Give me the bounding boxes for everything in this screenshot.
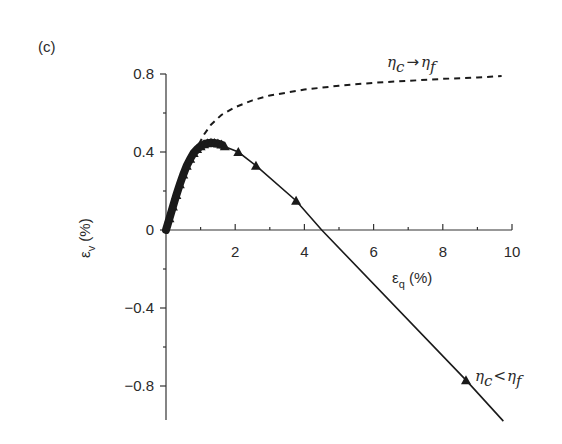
triangle-marker: [233, 147, 243, 156]
x-tick-label: 2: [231, 243, 239, 260]
x-axis-title-unit: (%): [405, 269, 433, 286]
annotation-upper-b-sub: f: [429, 58, 438, 76]
annotation-lower-a-sub: c: [484, 372, 493, 390]
annotation-lower-b: η: [507, 367, 516, 385]
x-tick-label: 10: [504, 243, 521, 260]
y-tick-labels: 0.80.40−0.4−0.8: [124, 65, 154, 394]
annotation-eta-c-to-eta-f: ηc→ηf: [387, 53, 438, 76]
x-axis-title: εq (%): [392, 269, 432, 290]
annotation-lower-a: η: [475, 367, 484, 385]
annotation-lower-op: <: [493, 367, 506, 385]
dashed-curve: [199, 76, 502, 144]
y-tick-label: 0.4: [133, 143, 154, 160]
solid-curve: [166, 143, 503, 421]
panel-label: (c): [38, 38, 56, 55]
annotation-upper-b: η: [421, 53, 430, 71]
y-tick-label: −0.8: [124, 377, 154, 394]
y-axis-title-unit: (%): [76, 218, 93, 246]
x-tick-label: 4: [300, 243, 308, 260]
y-tick-label: −0.4: [124, 299, 154, 316]
axes: [160, 74, 512, 420]
annotation-lower-b-sub: f: [515, 372, 524, 390]
annotation-upper-a: η: [387, 53, 396, 71]
chart-figure: (c) 0.80.40−0.4−0.8 246810 εq (%) εv (%)…: [0, 0, 562, 444]
annotation-upper-op: →: [406, 53, 419, 71]
annotation-upper-a-sub: c: [396, 58, 405, 76]
annotation-eta-c-less-eta-f: ηc<ηf: [475, 367, 524, 390]
x-tick-label: 8: [439, 243, 447, 260]
x-tick-label: 6: [369, 243, 377, 260]
x-tick-labels: 246810: [231, 243, 520, 260]
y-tick-label: 0: [146, 221, 154, 238]
series-eta-c-approaches-eta-f: [199, 76, 502, 144]
y-axis-title: εv (%): [76, 218, 97, 258]
series-eta-c-less-than-eta-f: [164, 138, 503, 421]
y-tick-label: 0.8: [133, 65, 154, 82]
